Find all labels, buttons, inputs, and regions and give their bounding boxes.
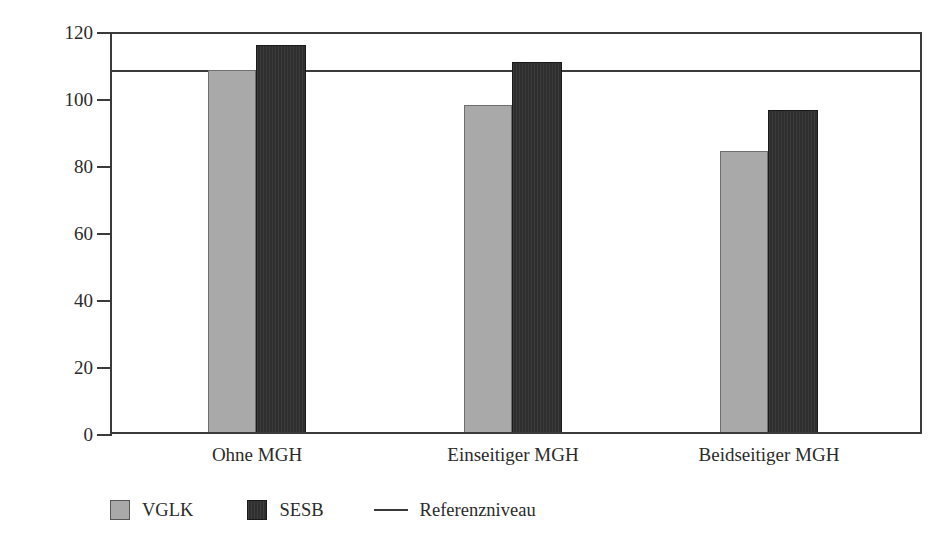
plot-frame-right — [920, 32, 922, 434]
y-tick-label-100: 100 — [47, 90, 93, 109]
x-tick-label-beidseitiger-mgh: Beidseitiger MGH — [699, 445, 840, 466]
legend-swatch-vglk-icon — [110, 500, 130, 520]
legend-label-sesb: SESB — [279, 500, 323, 521]
bar-einseitiger-mgh-vglk — [464, 105, 512, 432]
x-axis-spine — [112, 432, 922, 434]
bar-einseitiger-mgh-sesb — [512, 62, 562, 432]
bar-ohne-mgh-vglk — [208, 70, 256, 432]
plot-area — [112, 32, 922, 434]
plot-frame-top — [112, 32, 922, 34]
y-tick-label-40: 40 — [47, 291, 93, 310]
chart-legend: VGLK SESB Referenzniveau — [110, 494, 536, 526]
y-tick-label-60: 60 — [47, 224, 93, 243]
chart-figure: Deutschsprachige Leseleistung 120 100 80… — [0, 0, 951, 541]
legend-item-vglk: VGLK — [110, 500, 193, 521]
legend-swatch-sesb-icon — [247, 500, 267, 520]
y-tick-label-120: 120 — [47, 23, 93, 42]
y-tick-mark-120 — [97, 32, 111, 34]
legend-line-icon — [374, 509, 408, 511]
bar-beidseitiger-mgh-vglk — [720, 151, 768, 432]
y-tick-mark-20 — [97, 367, 111, 369]
y-tick-mark-40 — [97, 300, 111, 302]
bar-beidseitiger-mgh-sesb — [768, 110, 818, 432]
y-tick-mark-0 — [97, 434, 111, 436]
legend-label-referenzniveau: Referenzniveau — [420, 500, 536, 521]
bar-ohne-mgh-sesb — [256, 45, 306, 432]
y-axis-tick-labels: 120 100 80 60 40 20 0 — [47, 0, 93, 541]
y-tick-mark-100 — [97, 99, 111, 101]
x-tick-label-ohne-mgh: Ohne MGH — [212, 445, 302, 466]
x-tick-label-einseitiger-mgh: Einseitiger MGH — [447, 445, 578, 466]
legend-label-vglk: VGLK — [142, 500, 193, 521]
y-tick-label-0: 0 — [47, 425, 93, 444]
y-tick-label-20: 20 — [47, 358, 93, 377]
y-tick-mark-80 — [97, 166, 111, 168]
y-tick-mark-60 — [97, 233, 111, 235]
y-tick-label-80: 80 — [47, 157, 93, 176]
legend-item-sesb: SESB — [247, 500, 323, 521]
legend-item-referenzniveau: Referenzniveau — [374, 500, 536, 521]
